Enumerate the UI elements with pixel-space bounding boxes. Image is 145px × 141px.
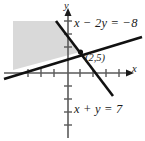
shaded-solution-region bbox=[13, 21, 80, 70]
y-axis-label: y bbox=[64, 1, 69, 12]
intersection-point-marker bbox=[78, 49, 83, 54]
graph-figure: x − 2y = −8 x + y = 7 (2,5) x y bbox=[0, 0, 145, 141]
equation-label-line2: x + y = 7 bbox=[74, 103, 123, 116]
intersection-point-label: (2,5) bbox=[85, 53, 105, 64]
x-axis-label: x bbox=[132, 64, 137, 75]
equation-label-line1: x − 2y = −8 bbox=[74, 17, 138, 30]
